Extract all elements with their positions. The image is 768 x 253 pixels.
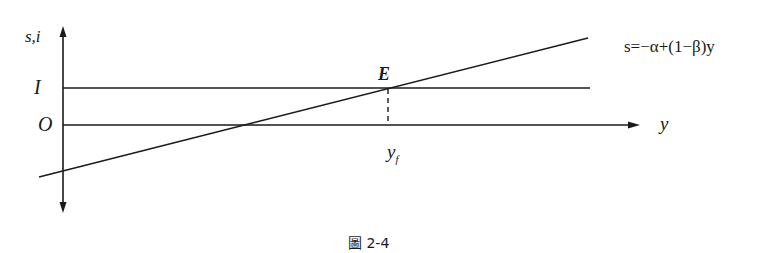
origin-label: O (38, 113, 52, 136)
saving-function-line (39, 38, 588, 177)
investment-label: I (34, 76, 41, 99)
x-axis-label: y (660, 113, 668, 135)
yf-subscript: f (395, 153, 398, 165)
figure-caption: 圖 2-4 (348, 232, 389, 252)
axis-arrow-down-icon (60, 202, 67, 213)
saving-equation-label: s=−α+(1−β)y (624, 37, 715, 57)
y-axis-label: s,i (25, 27, 41, 47)
full-employment-output-label: yf (387, 141, 399, 165)
axis-arrow-right-icon (628, 122, 640, 129)
equilibrium-point-label: E (378, 64, 390, 85)
axis-arrow-up-icon (60, 26, 67, 37)
